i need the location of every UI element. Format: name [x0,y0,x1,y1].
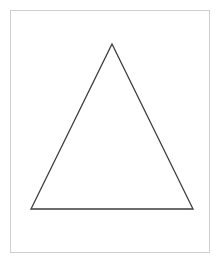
diagram-canvas [0,0,221,262]
triangle-shape [31,44,193,209]
figure-svg [0,0,221,262]
